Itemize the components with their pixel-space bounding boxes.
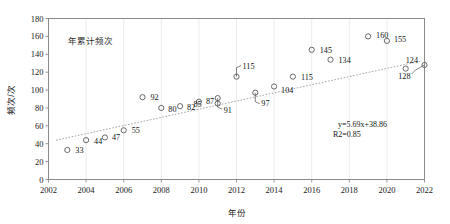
x-tick-label: 2018 [341,185,358,195]
gridlines [86,19,387,180]
x-tick-label: 2016 [303,185,320,195]
x-tick-label: 2006 [115,185,132,195]
point-value-label: 85 [194,100,202,109]
data-points-layer: 3344475592808287859111597104115145134160… [65,31,427,155]
point-value-label: 134 [339,56,351,65]
chart-svg: 020406080100120140160180 200220042006200… [0,0,450,224]
point-value-label: 115 [301,73,313,82]
point-marker [140,95,145,100]
point-value-label: 92 [151,93,159,102]
y-axis-tick-labels: 020406080100120140160180 [31,14,49,185]
point-value-label: 104 [281,86,293,95]
point-value-label: 55 [132,126,140,135]
x-axis-tick-labels: 2002200420062008201020122014201620182020… [40,180,433,195]
x-tick-label: 2004 [78,185,96,195]
point-value-label: 44 [94,137,102,146]
y-tick-label: 60 [35,121,44,131]
point-value-label: 155 [394,35,406,44]
scatter-chart: 020406080100120140160180 200220042006200… [0,0,450,224]
regression-equation: y=5.69x+38.86 [338,120,387,129]
point-marker [366,34,371,39]
point-value-label: 91 [224,106,232,115]
data-point: 124 [403,56,418,72]
y-tick-label: 140 [31,49,44,59]
point-value-label: 124 [406,56,418,65]
x-tick-label: 2010 [190,185,207,195]
y-tick-label: 80 [35,103,44,113]
point-value-label: 80 [168,105,176,114]
point-value-label: 160 [376,31,388,40]
y-tick-label: 160 [31,31,44,41]
x-tick-label: 2020 [378,185,395,195]
y-tick-label: 20 [35,157,44,167]
point-value-label: 33 [75,146,83,155]
data-point: 33 [65,146,84,155]
y-tick-label: 180 [31,14,44,24]
point-marker [65,147,70,152]
point-value-label: 87 [206,97,214,106]
data-point: 104 [272,84,294,95]
data-point: 128 [398,62,427,81]
point-value-label: 128 [398,72,410,81]
point-marker [403,66,408,71]
x-tick-label: 2012 [228,185,245,195]
point-value-label: 97 [261,99,269,108]
regression-r2: R2=0.85 [333,130,361,139]
point-marker [178,104,183,109]
data-point: 145 [309,46,332,55]
point-marker [290,74,295,79]
data-point: 97 [253,90,270,108]
y-axis-title: 频次/次 [6,85,16,114]
point-marker [328,57,333,62]
data-point: 92 [140,93,159,102]
point-value-label: 47 [112,133,120,142]
x-axis-title: 年份 [228,208,246,218]
y-tick-label: 0 [39,175,43,185]
legend-label: 年累计频次 [68,36,113,46]
data-point: 91 [215,96,232,116]
data-point: 47 [102,133,120,142]
y-tick-label: 40 [35,139,44,149]
data-point: 115 [290,73,313,82]
y-tick-label: 100 [31,85,44,95]
point-value-label: 145 [320,46,332,55]
data-point: 115 [234,62,255,80]
x-tick-label: 2008 [153,185,170,195]
data-point: 134 [328,56,351,65]
point-value-label: 115 [243,62,255,71]
x-tick-label: 2002 [40,185,57,195]
x-tick-label: 2022 [416,185,433,195]
point-marker [102,135,107,140]
x-tick-label: 2014 [266,185,284,195]
y-tick-label: 120 [31,67,44,77]
